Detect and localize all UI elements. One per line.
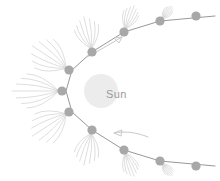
comet-nucleus xyxy=(87,47,96,56)
comet-nucleus xyxy=(119,27,128,36)
comet-tail xyxy=(32,39,67,71)
labels-layer: Sun xyxy=(106,88,127,100)
tail-filament xyxy=(32,54,67,68)
comet-orbit-diagram: Sun xyxy=(0,0,220,181)
comet-nucleus xyxy=(119,145,128,154)
comet-nucleus xyxy=(155,16,164,25)
comet-nucleus xyxy=(191,161,200,170)
comet-tail xyxy=(162,6,173,18)
comet-nucleus xyxy=(191,11,200,20)
comet-tail xyxy=(74,17,98,49)
sun-label: Sun xyxy=(106,88,127,100)
tail-filament xyxy=(32,114,67,128)
arrow-head-icon xyxy=(114,130,122,136)
comet-tail xyxy=(74,133,98,165)
comet-nucleus xyxy=(64,65,73,74)
comet-tail xyxy=(122,153,138,176)
comet-orbit-svg: Sun xyxy=(0,0,220,181)
comet-tail xyxy=(162,163,173,175)
comet-nuclei-layer xyxy=(57,11,200,170)
comet-nucleus xyxy=(155,156,164,165)
comet-nucleus xyxy=(87,125,96,134)
arrow-shaft xyxy=(114,132,148,137)
comet-tail xyxy=(12,74,59,108)
comet-nucleus xyxy=(57,86,66,95)
comet-tail xyxy=(122,6,138,29)
comet-tail xyxy=(32,111,67,143)
comet-nucleus xyxy=(64,107,73,116)
arrow-lower xyxy=(114,130,148,137)
